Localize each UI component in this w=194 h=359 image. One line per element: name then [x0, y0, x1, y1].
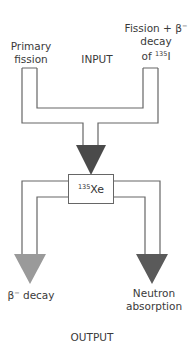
beta-minus-sup: − — [182, 22, 187, 30]
input-pipe-outer-right — [98, 68, 158, 145]
input-title: INPUT — [72, 53, 122, 66]
absorption-text: absorption — [124, 300, 184, 313]
input-arrow-icon — [76, 145, 106, 175]
output-title: OUTPUT — [62, 331, 122, 344]
fission-beta-line1: Fission + β− — [120, 20, 192, 35]
output-label-neutron-absorption: Neutron absorption — [124, 287, 184, 313]
primary-label-line2: fission — [4, 53, 58, 66]
input-pipe-inner — [37, 68, 143, 108]
output-pipe-left-inner — [37, 197, 68, 254]
of-text: of — [142, 50, 155, 62]
output-pipe-right-inner — [114, 197, 145, 254]
fission-beta-line3: of 135I — [120, 48, 192, 63]
input-pipe-outer — [22, 68, 83, 145]
xenon-symbol: Xe — [90, 183, 104, 196]
input-title-text: INPUT — [81, 53, 112, 65]
decay-text: decay — [20, 289, 55, 301]
neutron-absorption-arrow-icon — [136, 254, 168, 284]
output-label-beta-decay: β− decay — [2, 287, 60, 302]
input-label-fission-beta-decay: Fission + β− decay of 135I — [120, 20, 192, 63]
output-pipe-right-outer — [114, 181, 160, 254]
xenon-node-label: 135Xe — [78, 183, 104, 196]
output-pipe-left-outer — [22, 181, 68, 254]
iodine-mass-sup: 135 — [155, 50, 167, 58]
output-title-text: OUTPUT — [71, 331, 114, 343]
primary-label-line1: Primary — [4, 40, 58, 53]
beta-decay-arrow-icon — [14, 254, 46, 284]
fission-beta-text: Fission + β — [125, 22, 182, 34]
iodine-symbol: I — [167, 50, 170, 62]
input-label-primary-fission: Primary fission — [4, 40, 58, 66]
xenon-135-node: 135Xe — [68, 174, 114, 204]
fission-beta-line2: decay — [120, 35, 192, 48]
neutron-text: Neutron — [124, 287, 184, 300]
xenon-mass-sup: 135 — [78, 183, 90, 191]
